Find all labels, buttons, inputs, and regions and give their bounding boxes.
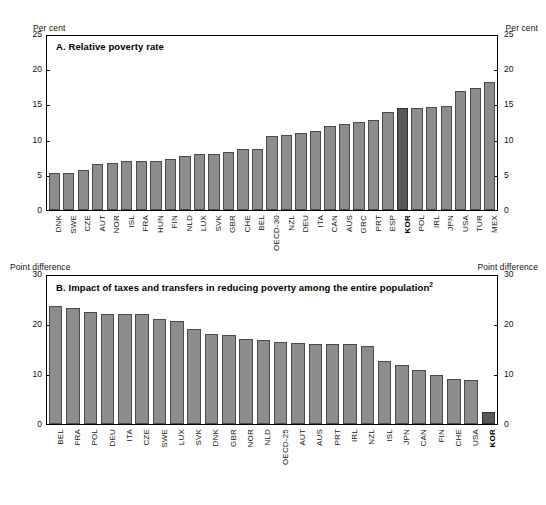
bar-nzl[interactable] [281, 135, 292, 210]
x-label-cell: FIN [428, 427, 445, 477]
bar-cze[interactable] [78, 170, 89, 210]
x-label-cell: JPN [393, 427, 410, 477]
bar-cell [393, 276, 410, 424]
x-label-cell: FRA [134, 213, 149, 259]
bar-bel[interactable] [252, 149, 263, 210]
bar-grc[interactable] [353, 122, 364, 210]
x-axis-label-nor: NOR [246, 429, 255, 447]
bar-usa[interactable] [464, 380, 478, 424]
bar-nor[interactable] [107, 163, 118, 210]
x-axis-label-ita: ITA [125, 429, 134, 441]
bar-cell [207, 36, 222, 210]
y-tick-left-5: 5 [14, 170, 42, 180]
bar-ita[interactable] [118, 314, 132, 424]
bar-nld[interactable] [257, 340, 271, 424]
bar-ita[interactable] [310, 131, 321, 210]
bar-cell [352, 36, 367, 210]
bar-tur[interactable] [470, 88, 481, 210]
bar-dnk[interactable] [49, 173, 60, 210]
bar-lux[interactable] [194, 154, 205, 210]
bar-fin[interactable] [165, 159, 176, 210]
panel-a-x-labels: DNKSWECZEAUTNORISLFRAHUNFINNLDLUXSVKGBRC… [47, 213, 497, 259]
x-axis-label-dnk: DNK [211, 429, 220, 447]
x-axis-label-pol: POL [90, 429, 99, 446]
x-axis-label-isl: ISL [385, 429, 394, 442]
y-tick-left-0: 0 [14, 205, 42, 215]
bar-cell [307, 276, 324, 424]
x-label-cell: CAN [323, 213, 338, 259]
bar-oecd-25[interactable] [274, 342, 288, 424]
bar-cell [82, 276, 99, 424]
bar-irl[interactable] [343, 344, 357, 424]
bar-fra[interactable] [66, 308, 80, 424]
bar-isl[interactable] [378, 361, 392, 424]
bar-aut[interactable] [291, 343, 305, 424]
bar-cell [64, 276, 81, 424]
x-axis-label-usa: USA [471, 429, 480, 446]
bar-cell [116, 276, 133, 424]
bar-jpn[interactable] [395, 365, 409, 424]
bar-kor[interactable] [397, 108, 408, 210]
bar-cze[interactable] [135, 314, 149, 424]
bar-swe[interactable] [63, 173, 74, 210]
bar-cell [192, 36, 207, 210]
bar-mex[interactable] [484, 82, 495, 210]
bar-fin[interactable] [430, 375, 444, 424]
bar-prt[interactable] [326, 344, 340, 424]
x-axis-label-irl: IRL [350, 429, 359, 442]
bar-nld[interactable] [179, 156, 190, 210]
bar-nor[interactable] [239, 339, 253, 424]
bar-cell [428, 276, 445, 424]
x-label-cell: POL [82, 427, 99, 477]
bar-hun[interactable] [150, 161, 161, 210]
bar-esp[interactable] [382, 112, 393, 210]
bar-irl[interactable] [426, 107, 437, 210]
bar-cell [265, 36, 280, 210]
bar-aus[interactable] [309, 344, 323, 424]
x-label-cell: NLD [255, 427, 272, 477]
x-label-cell: CZE [134, 427, 151, 477]
bar-svk[interactable] [187, 329, 201, 424]
bar-pol[interactable] [84, 312, 98, 424]
bar-lux[interactable] [170, 321, 184, 424]
bar-gbr[interactable] [223, 152, 234, 210]
bar-isl[interactable] [121, 161, 132, 210]
bar-usa[interactable] [455, 91, 466, 210]
bar-cell [341, 276, 358, 424]
bar-pol[interactable] [411, 108, 422, 210]
x-label-cell: DEU [99, 427, 116, 477]
bar-nzl[interactable] [361, 346, 375, 424]
bar-dnk[interactable] [205, 334, 219, 424]
bar-cell [47, 36, 62, 210]
bar-che[interactable] [237, 149, 248, 210]
bar-swe[interactable] [153, 319, 167, 424]
bar-aus[interactable] [339, 124, 350, 210]
bar-prt[interactable] [368, 120, 379, 210]
x-axis-label-oecd-25: OECD-25 [281, 429, 290, 465]
bar-svk[interactable] [208, 154, 219, 210]
bar-cell [186, 276, 203, 424]
bar-aut[interactable] [92, 164, 103, 210]
bar-deu[interactable] [101, 314, 115, 424]
bar-deu[interactable] [295, 133, 306, 210]
bar-can[interactable] [324, 126, 335, 210]
bar-cell [236, 36, 251, 210]
x-label-cell: TUR [468, 213, 483, 259]
bar-cell [91, 36, 106, 210]
bar-jpn[interactable] [441, 106, 452, 210]
x-label-cell: POL [410, 213, 425, 259]
bar-che[interactable] [447, 379, 461, 424]
y-tick-left-25: 25 [14, 29, 42, 39]
bar-oecd-30[interactable] [266, 136, 277, 210]
x-axis-label-swe: SWE [160, 429, 169, 448]
bar-kor[interactable] [482, 412, 496, 424]
x-label-cell: ITA [308, 213, 323, 259]
bar-gbr[interactable] [222, 335, 236, 424]
y-tick-right-0: 0 [504, 205, 532, 215]
x-axis-label-gbr: GBR [229, 429, 238, 447]
bar-bel[interactable] [49, 306, 63, 424]
bar-cell [468, 36, 483, 210]
bar-fra[interactable] [136, 161, 147, 210]
bar-can[interactable] [412, 370, 426, 424]
bar-cell [279, 36, 294, 210]
